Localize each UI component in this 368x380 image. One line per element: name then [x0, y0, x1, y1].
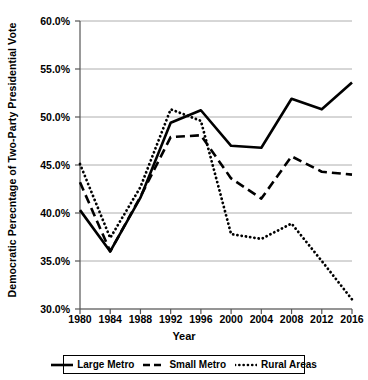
- series-line-small-metro: [80, 135, 352, 251]
- legend-label: Large Metro: [77, 359, 134, 370]
- x-axis-tick-label: 1984: [99, 313, 122, 325]
- y-axis-tick-label: 60.0%: [40, 15, 70, 27]
- y-axis-tick-label: 40.0%: [40, 207, 70, 219]
- x-axis-tick-label: 1988: [129, 313, 152, 325]
- y-axis-tick-labels: 60.0%55.0%50.0%45.0%40.0%35.0%30.0%: [22, 0, 74, 330]
- legend-swatch-solid-icon: [51, 361, 73, 369]
- legend-label: Rural Areas: [261, 359, 317, 370]
- x-axis-tick-label: 2016: [340, 313, 363, 325]
- y-axis-tick-label: 35.0%: [40, 255, 70, 267]
- axis-ticks: [75, 21, 352, 314]
- x-axis-tick-label: 2008: [280, 313, 303, 325]
- axis-lines: [80, 21, 352, 309]
- gridlines: [80, 21, 352, 309]
- chart-legend: Large MetroSmall MetroRural Areas: [63, 355, 305, 374]
- series-line-rural-areas: [80, 109, 352, 299]
- y-axis-label: Democratic Perecntage of Two-Party Presi…: [0, 0, 24, 320]
- x-axis-tick-label: 2000: [219, 313, 242, 325]
- x-axis-tick-label: 1996: [189, 313, 212, 325]
- x-axis-tick-label: 1992: [159, 313, 182, 325]
- x-axis-tick-label: 2012: [310, 313, 333, 325]
- legend-item[interactable]: Small Metro: [143, 359, 226, 370]
- legend-swatch-dotted-icon: [235, 361, 257, 369]
- legend-label: Small Metro: [169, 359, 226, 370]
- y-axis-tick-label: 55.0%: [40, 63, 70, 75]
- x-axis-label: Year: [0, 330, 368, 342]
- series-line-large-metro: [80, 82, 352, 251]
- legend-item[interactable]: Large Metro: [51, 359, 134, 370]
- legend-item[interactable]: Rural Areas: [235, 359, 317, 370]
- y-axis-tick-label: 45.0%: [40, 159, 70, 171]
- chart-container: Democratic Perecntage of Two-Party Presi…: [0, 0, 368, 380]
- y-axis-tick-label: 50.0%: [40, 111, 70, 123]
- x-axis-tick-label: 2004: [250, 313, 273, 325]
- y-axis-label-text: Democratic Perecntage of Two-Party Presi…: [6, 23, 18, 298]
- data-series-group: [80, 82, 352, 299]
- x-axis-tick-labels: 1980198419881992199620002004200820122016: [0, 313, 368, 331]
- legend-swatch-dashed-icon: [143, 361, 165, 369]
- x-axis-tick-label: 1980: [68, 313, 91, 325]
